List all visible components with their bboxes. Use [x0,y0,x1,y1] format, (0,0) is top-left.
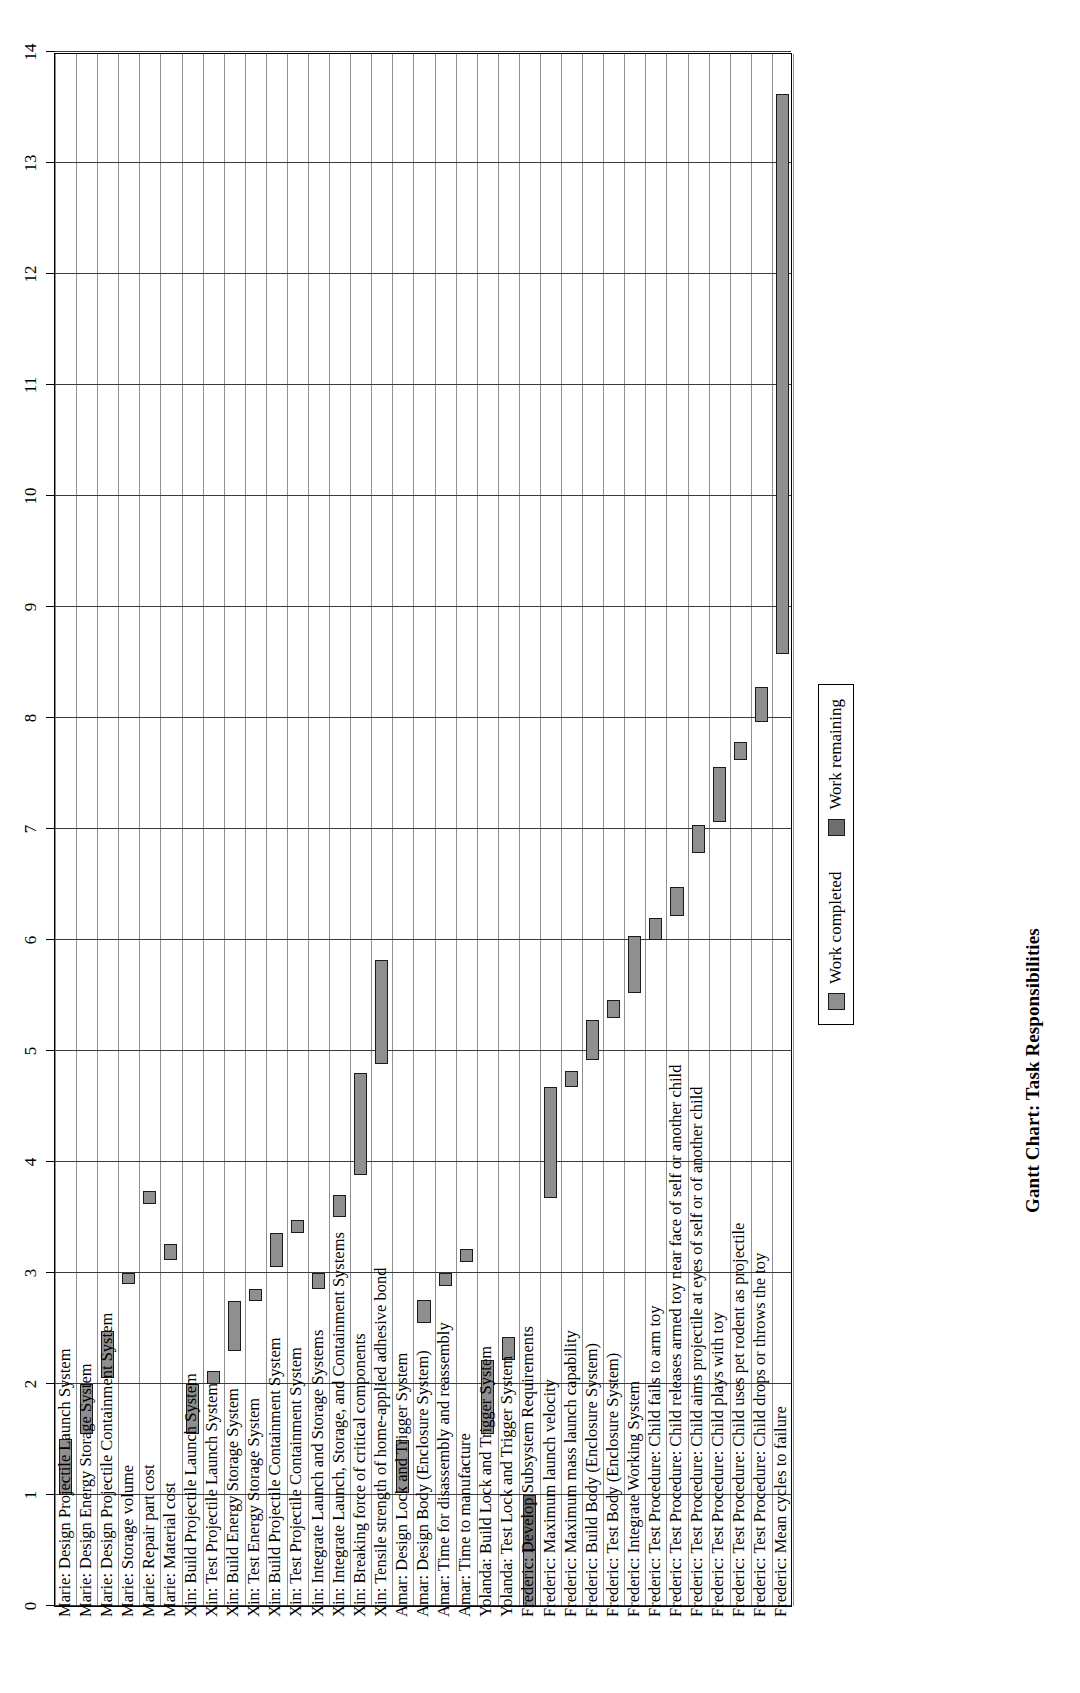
gantt-bar[interactable] [312,1273,325,1289]
gantt-bar[interactable] [713,767,726,823]
gantt-bar[interactable] [333,1195,346,1217]
value-tick-label: 1 [21,1491,41,1500]
gantt-bar[interactable] [565,1071,578,1087]
category-gridline [224,54,225,1606]
legend-swatch-remaining-icon [828,819,845,836]
gantt-bar[interactable] [143,1191,156,1204]
value-tick-label: 9 [21,603,41,612]
category-gridline [139,54,140,1606]
legend-item-work-remaining: Work remaining [826,699,846,836]
value-tick-label: 7 [21,825,41,834]
category-gridline [772,54,773,1606]
gantt-chart: Gantt Chart: Task Responsibilities 01234… [0,0,1080,1693]
value-tick-mark [46,273,55,274]
gantt-bar[interactable] [776,94,789,653]
value-gridline [55,384,791,385]
gantt-bar[interactable] [417,1300,430,1323]
gantt-bar[interactable] [375,960,388,1064]
legend-swatch-completed-icon [828,993,845,1010]
value-tick-label: 12 [21,266,41,283]
chart-legend: Work completed Work remaining [818,684,854,1025]
value-gridline [55,495,791,496]
value-tick-label: 8 [21,714,41,723]
category-gridline [624,54,625,1606]
legend-label-completed: Work completed [826,872,846,984]
value-tick-label: 14 [21,44,41,61]
value-tick-mark [46,1272,55,1273]
value-tick-label: 3 [21,1269,41,1278]
gantt-bar[interactable] [544,1087,557,1198]
gantt-bar[interactable] [439,1273,452,1286]
category-gridline [203,54,204,1606]
value-tick-mark [46,717,55,718]
value-tick-label: 11 [21,377,41,393]
legend-item-work-completed: Work completed [826,872,846,1010]
gantt-bar[interactable] [670,887,683,916]
gantt-bar[interactable] [649,918,662,940]
value-tick-mark [46,1050,55,1051]
gantt-bar[interactable] [249,1289,262,1301]
value-tick-label: 0 [21,1602,41,1611]
gantt-bar[interactable] [586,1020,599,1060]
value-tick-label: 4 [21,1158,41,1167]
gantt-bar[interactable] [607,1000,620,1018]
value-gridline [55,828,791,829]
value-gridline [55,1050,791,1051]
value-tick-label: 6 [21,936,41,945]
value-tick-label: 10 [21,488,41,505]
value-tick-mark [46,939,55,940]
value-tick-label: 2 [21,1380,41,1389]
value-tick-label: 13 [21,155,41,172]
category-gridline [160,54,161,1606]
value-gridline [55,51,791,52]
gantt-bar[interactable] [122,1273,135,1284]
gantt-bar[interactable] [207,1371,220,1384]
gantt-bar[interactable] [755,687,768,723]
value-gridline [55,939,791,940]
rotated-chart-stage: Gantt Chart: Task Responsibilities 01234… [0,0,1080,1693]
page-title: Gantt Chart: Task Responsibilities [1022,928,1044,1213]
value-tick-mark [46,1161,55,1162]
category-gridline [118,54,119,1606]
value-gridline [55,162,791,163]
gantt-bar[interactable] [692,825,705,854]
value-gridline [55,606,791,607]
category-gridline [456,54,457,1606]
category-gridline [540,54,541,1606]
value-gridline [55,273,791,274]
gantt-bar[interactable] [354,1073,367,1175]
value-tick-mark [46,495,55,496]
value-gridline [55,717,791,718]
value-tick-mark [46,51,55,52]
gantt-bar[interactable] [628,936,641,994]
gantt-bar[interactable] [460,1249,473,1262]
gantt-bar[interactable] [734,742,747,760]
legend-label-remaining: Work remaining [826,699,846,810]
value-tick-mark [46,384,55,385]
gantt-bar[interactable] [291,1220,304,1233]
value-tick-mark [46,606,55,607]
value-tick-label: 5 [21,1047,41,1056]
value-tick-mark [46,162,55,163]
gantt-bar[interactable] [228,1301,241,1351]
category-gridline [245,54,246,1606]
gantt-bar[interactable] [164,1244,177,1260]
value-tick-mark [46,828,55,829]
gantt-bar[interactable] [270,1233,283,1267]
category-gridline [793,54,794,1606]
